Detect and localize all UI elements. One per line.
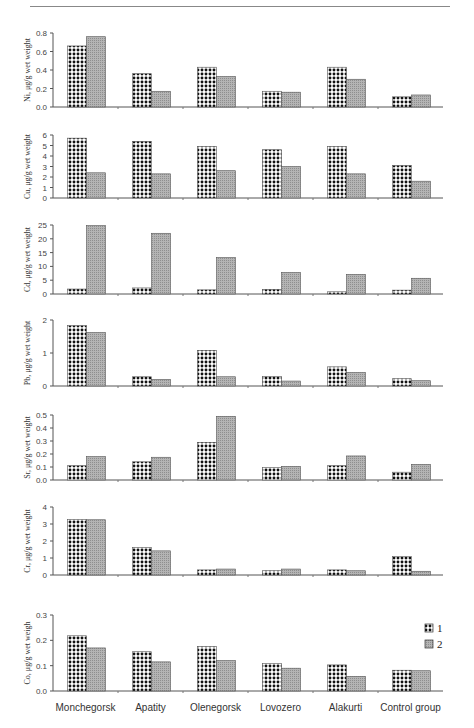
y-tick-label: 2 [43,173,48,182]
bar-series-2 [282,668,301,691]
bar-series-1 [393,472,412,480]
bar-series-2 [282,381,301,386]
bar-series-2 [87,333,106,386]
bar-series-2 [152,457,171,480]
y-tick-label: 6 [43,131,48,140]
bar-series-1 [68,636,87,691]
y-tick-label: 0 [43,382,48,391]
multi-panel-bar-chart: 0.00.20.40.60.8Ni, μg/g wet weight012345… [0,0,474,728]
bar-series-1 [133,547,152,575]
y-tick-label: 3 [43,520,48,529]
bar-series-2 [152,379,171,386]
bar-series-1 [133,462,152,480]
bar-series-1 [328,67,347,107]
bar-series-1 [263,91,282,107]
y-axis-label: Cu, μg/g wet weight [23,133,32,199]
y-tick-label: 0.4 [36,66,48,75]
bar-series-2 [87,457,106,480]
y-axis-label: Cr, μg/g wet weight [23,508,32,572]
bar-series-1 [68,138,87,198]
category-label: Apatity [135,702,166,713]
bar-series-1 [133,141,152,198]
bar-series-2 [87,37,106,107]
panel-cd: 0510152025Cd, μg/g wet weight [23,221,443,299]
y-tick-label: 1 [43,349,48,358]
legend-swatch-1 [425,624,433,632]
bar-series-1 [263,289,282,294]
bar-series-2 [217,416,236,480]
y-axis-label: Cd, μg/g wet weight [23,226,32,292]
category-label: Alakurti [329,702,362,713]
bar-series-1 [328,292,347,294]
bar-series-2 [412,278,431,294]
y-axis-label: Co, μg/g wet weigh [23,622,32,685]
bar-series-2 [87,226,106,294]
y-tick-label: 10 [38,262,47,271]
bar-series-2 [87,648,106,691]
panel-co: 0.00.10.20.3Co, μg/g wet weigh [23,611,443,696]
y-tick-label: 0.6 [36,48,48,57]
bar-series-2 [152,174,171,198]
bar-series-2 [217,569,236,575]
legend: 12 [425,622,443,650]
bar-series-2 [217,377,236,386]
y-tick-label: 25 [38,221,47,230]
bar-series-2 [282,272,301,294]
y-tick-label: 0.0 [36,476,48,485]
bar-series-1 [133,74,152,107]
panel-cr: 01234Cr, μg/g wet weight [23,503,443,580]
bar-series-1 [263,150,282,198]
y-tick-label: 0 [43,571,48,580]
bar-series-1 [328,367,347,386]
y-tick-label: 4 [43,503,48,512]
bar-series-2 [152,551,171,575]
bar-series-1 [328,570,347,575]
category-label: Olenegorsk [190,702,242,713]
bar-series-2 [217,661,236,691]
bar-series-1 [133,288,152,294]
category-label: Lovozero [260,702,302,713]
y-tick-label: 2 [43,316,48,325]
bar-series-2 [412,95,431,107]
bar-series-2 [282,167,301,199]
bar-series-1 [263,664,282,691]
panel-cu: 0123456Cu, μg/g wet weight [23,131,443,203]
bar-series-2 [217,76,236,107]
y-tick-label: 0.2 [36,636,48,645]
bar-series-2 [152,662,171,691]
bar-series-1 [393,290,412,294]
bar-series-2 [347,456,366,480]
bar-series-1 [263,376,282,386]
bar-series-1 [68,46,87,107]
y-tick-label: 0.5 [36,411,48,420]
y-tick-label: 0.4 [36,424,48,433]
y-tick-label: 0.1 [36,463,48,472]
bar-series-1 [68,519,87,575]
bar-series-2 [347,274,366,294]
bar-series-2 [347,79,366,107]
panel-sr: 0.00.10.20.30.40.5Sr, μg/g wet weight [23,411,443,485]
y-tick-label: 3 [43,163,48,172]
bar-series-2 [347,676,366,691]
bar-series-1 [328,147,347,198]
panel-pb: 012Pb, μg/g wet weight [23,316,443,391]
legend-swatch-2 [425,640,433,648]
bar-series-1 [133,652,152,691]
y-tick-label: 5 [43,142,48,151]
y-tick-label: 20 [38,235,47,244]
bar-series-2 [412,464,431,480]
chart-panels: 0.00.20.40.60.8Ni, μg/g wet weight012345… [23,29,443,696]
bar-series-2 [412,571,431,575]
category-label: Monchegorsk [55,702,116,713]
category-label: Control group [380,702,441,713]
y-tick-label: 0.3 [36,611,48,620]
y-axis-label: Pb, μg/g wet weight [23,320,32,385]
y-tick-label: 2 [43,537,48,546]
legend-label-2: 2 [437,638,443,650]
bar-series-1 [393,165,412,198]
bar-series-1 [198,350,217,386]
bar-series-1 [393,379,412,386]
y-axis-label: Ni, μg/g wet weight [23,37,32,102]
bar-series-1 [133,377,152,386]
panel-ni: 0.00.20.40.60.8Ni, μg/g wet weight [23,29,443,112]
